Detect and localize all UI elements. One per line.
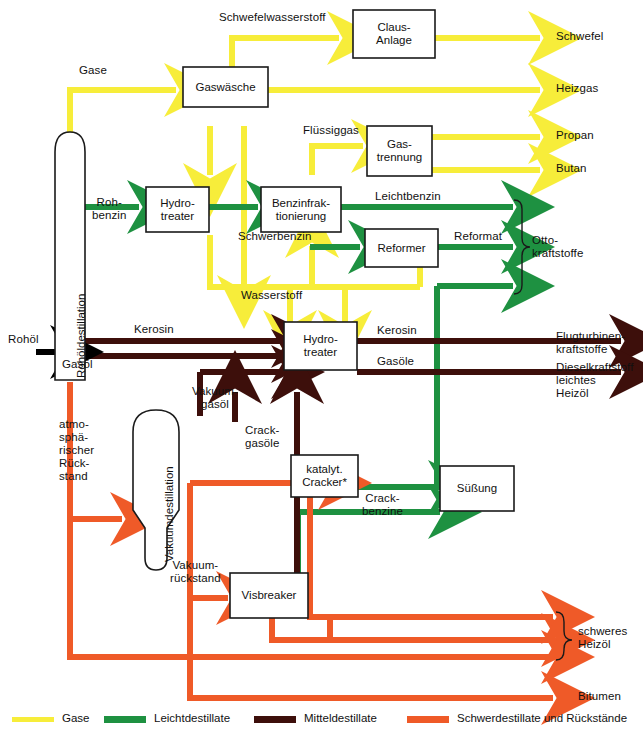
stream-label-leichtbenzin: Leichtbenzin bbox=[375, 190, 441, 203]
stream-label-gasoele-out: Gasöle bbox=[377, 355, 414, 368]
stream-label-rohbenzin: Roh- benzin bbox=[92, 196, 127, 222]
legend-label-schwerdestillate: Schwerdestillate und Rückstände bbox=[457, 712, 627, 724]
product-label-heizgas: Heizgas bbox=[556, 82, 598, 95]
product-label-propan: Propan bbox=[556, 129, 594, 142]
legend-label-mitteldestillate: Mitteldestillate bbox=[304, 712, 377, 724]
stream-label-vakuumgasoel: Vakuum- gasöl bbox=[192, 385, 238, 411]
stream-label-crackbenzine: Crack- benzine bbox=[362, 492, 403, 518]
stream-label-kerosin-out: Kerosin bbox=[377, 324, 417, 337]
stream-label-crackgasoele: Crack- gasöle bbox=[245, 424, 280, 450]
schweres-heizoel-brace bbox=[556, 612, 572, 660]
stream-label-fluessiggas: Flüssiggas bbox=[303, 124, 359, 137]
product-label-schweres-heizoel: schweres Heizöl bbox=[578, 625, 627, 651]
stream-label-gase: Gase bbox=[79, 64, 107, 77]
gas-stream-lines bbox=[70, 38, 540, 322]
legend-swatch-mittel bbox=[254, 716, 296, 723]
legend-label-gase: Gase bbox=[62, 712, 90, 724]
legend-swatch-leicht bbox=[104, 716, 146, 723]
product-label-ottokraftstoffe: Otto- kraftstoffe bbox=[532, 234, 583, 260]
legend-swatch-gase bbox=[12, 717, 54, 722]
gaswaesche-label: Gaswäsche bbox=[183, 67, 268, 107]
benzinfraktionierung-label: Benzinfrak- tionierung bbox=[261, 187, 341, 232]
stream-label-gasoel: Gasöl bbox=[62, 358, 93, 371]
stream-label-reformat: Reformat bbox=[454, 230, 502, 243]
legend-swatch-schwer bbox=[407, 716, 449, 723]
stream-label-kerosin-in: Kerosin bbox=[134, 323, 174, 336]
kat-cracker-label: katalyt. Cracker* bbox=[291, 455, 358, 497]
stream-label-atm-rueckstand: atmo- sphä- rischer Rück- stand bbox=[59, 418, 94, 482]
suessung-label: Süßung bbox=[440, 466, 514, 511]
stream-label-vakuumrueckstand: Vakuum- rückstand bbox=[170, 559, 221, 585]
vakuumdestillation-label: Vakuumdestillation bbox=[163, 466, 175, 562]
stream-label-rohoel: Rohöl bbox=[8, 333, 39, 346]
hydrotreater-1-label: Hydro- treater bbox=[146, 187, 209, 232]
refinery-flow-diagram: Rohöldestillation Vakuumdestillation Gas… bbox=[0, 0, 643, 734]
visbreaker-label: Visbreaker bbox=[230, 573, 308, 618]
product-label-bitumen: Bitumen bbox=[578, 690, 621, 703]
stream-label-schwerbenzin: Schwerbenzin bbox=[238, 230, 311, 243]
stream-label-schwefelwasserstoff: Schwefelwasserstoff bbox=[219, 11, 326, 24]
legend-label-leichtdestillate: Leichtdestillate bbox=[154, 712, 230, 724]
product-label-schwefel: Schwefel bbox=[556, 30, 603, 43]
product-label-flugturbinenkraftstoffe: Flugturbinen- kraftstoffe bbox=[556, 330, 625, 356]
stream-label-wasserstoff: Wasserstoff bbox=[241, 289, 302, 302]
hydrotreater-2-label: Hydro- treater bbox=[284, 322, 357, 370]
claus-label: Claus- Anlage bbox=[353, 10, 435, 58]
gastrennung-label: Gas- trennung bbox=[367, 126, 432, 176]
product-label-butan: Butan bbox=[556, 162, 587, 175]
product-label-dieselkraftstoff: Dieselkraftstoff leichtes Heizöl bbox=[556, 361, 633, 400]
ottokraftstoffe-brace bbox=[514, 200, 530, 294]
reformer-label: Reformer bbox=[365, 229, 438, 267]
